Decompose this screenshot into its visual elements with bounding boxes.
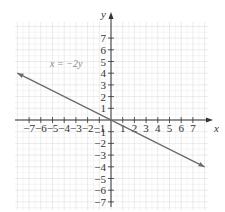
y-tick-label: 7 xyxy=(101,32,107,44)
x-tick-label: 4 xyxy=(155,122,161,134)
y-tick-label: 5 xyxy=(101,56,107,68)
y-tick-label: −4 xyxy=(94,161,106,173)
x-tick-label: 6 xyxy=(178,122,184,134)
y-tick-label: 1 xyxy=(101,102,107,114)
y-tick-label: 4 xyxy=(101,67,107,79)
x-tick-label: −3 xyxy=(70,122,82,134)
coordinate-plane-chart: −7−6−5−4−3−2−11234567 −7−6−5−4−3−2−11234… xyxy=(0,0,225,212)
x-tick-label: 1 xyxy=(120,122,126,134)
line-arrow-icon xyxy=(17,73,23,78)
x-tick-label: −4 xyxy=(58,122,70,134)
x-axis-label: x xyxy=(213,122,219,134)
line-arrow-icon xyxy=(198,162,204,167)
y-tick-label: −7 xyxy=(94,196,106,208)
y-tick-label: 6 xyxy=(101,44,107,56)
y-tick-label: −6 xyxy=(94,184,106,196)
axes xyxy=(15,12,213,207)
x-axis-arrow-icon xyxy=(206,118,213,123)
y-axis-label: y xyxy=(100,8,106,20)
y-tick-label: −3 xyxy=(94,149,106,161)
x-tick-label: −5 xyxy=(47,122,59,134)
x-tick-label: −6 xyxy=(35,122,47,134)
equation-label: x = −2y xyxy=(49,58,83,69)
y-tick-label: −5 xyxy=(94,173,106,185)
y-tick-label: 2 xyxy=(101,91,107,103)
x-tick-label: −2 xyxy=(82,122,94,134)
y-tick-label: −1 xyxy=(94,126,106,138)
y-tick-label: −2 xyxy=(94,137,106,149)
y-axis-arrow-icon xyxy=(109,12,114,19)
x-tick-label: 7 xyxy=(190,122,196,134)
x-tick-label: 5 xyxy=(167,122,173,134)
y-tick-label: 3 xyxy=(101,79,107,91)
x-tick-label: −7 xyxy=(23,122,35,134)
x-tick-label: 3 xyxy=(143,122,149,134)
